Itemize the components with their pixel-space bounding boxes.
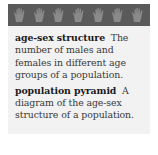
hand-icon [33, 7, 47, 23]
hand-icon [72, 7, 86, 23]
hand-banner [8, 4, 150, 26]
hand-icon [92, 7, 106, 23]
hand-icon [13, 7, 27, 23]
hand-icon [111, 7, 125, 23]
glossary-term: population pyramid [15, 85, 116, 96]
glossary-term: age-sex structure [15, 32, 105, 43]
hand-icon [52, 7, 66, 23]
glossary-entry: population pyramid A diagram of the age-… [15, 85, 146, 122]
glossary-card: age-sex structure The number of males an… [8, 4, 150, 134]
glossary-entry: age-sex structure The number of males an… [15, 32, 146, 82]
hand-icon [131, 7, 145, 23]
glossary-panel: age-sex structure The number of males an… [8, 26, 150, 134]
